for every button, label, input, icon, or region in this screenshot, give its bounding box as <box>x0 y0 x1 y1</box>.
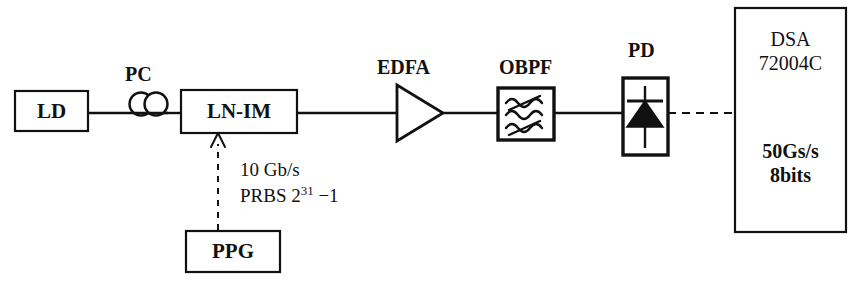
pd-label: PD <box>628 40 655 60</box>
dsa-line-1: DSA <box>735 28 846 52</box>
pc-symbol <box>130 93 169 116</box>
prbs-prefix: PRBS 2 <box>240 185 301 206</box>
obpf-label: OBPF <box>499 57 552 77</box>
obpf-symbol <box>498 88 554 140</box>
pd-symbol <box>623 78 668 155</box>
prbs-exponent: 31 <box>301 183 314 198</box>
optical-setup-diagram: LD PC LN-IM PPG 10 Gb/s PRBS 231 −1 EDFA… <box>0 0 859 290</box>
ppg-label: PPG <box>186 231 280 272</box>
edfa-triangle-icon <box>397 85 443 141</box>
dsa-line-4: 8bits <box>735 164 846 188</box>
diagram-canvas <box>0 0 859 290</box>
dsa-model-text: DSA 72004C <box>735 28 846 75</box>
dsa-spec-text: 50Gs/s 8bits <box>735 140 846 187</box>
bitrate-annotation: 10 Gb/s <box>240 160 300 179</box>
dsa-line-2: 72004C <box>735 52 846 76</box>
dsa-line-3: 50Gs/s <box>735 140 846 164</box>
prbs-suffix: −1 <box>314 185 339 206</box>
prbs-annotation: PRBS 231 −1 <box>240 186 339 205</box>
lnim-label: LN-IM <box>181 90 297 133</box>
ppg-drive-connection <box>211 133 225 230</box>
ld-label: LD <box>15 91 88 131</box>
edfa-label: EDFA <box>377 57 430 77</box>
pc-label: PC <box>125 64 152 84</box>
